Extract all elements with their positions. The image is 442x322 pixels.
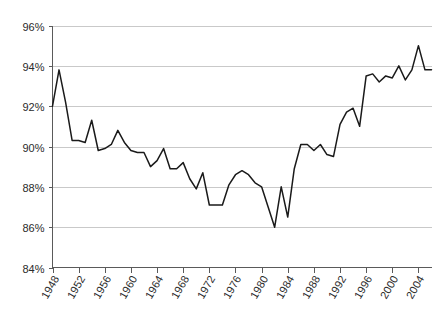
x-tick-label: 2000 — [378, 274, 401, 301]
x-tick-label: 1968 — [169, 274, 192, 301]
x-tick-label: 1992 — [326, 274, 349, 301]
y-tick-label: 86% — [22, 222, 44, 234]
y-tick-label: 94% — [22, 61, 44, 73]
x-tick-label: 1976 — [221, 274, 244, 301]
x-tick-label: 1984 — [274, 274, 297, 301]
y-tick-label: 84% — [22, 263, 44, 275]
y-tick-label: 96% — [22, 21, 44, 33]
x-tick-label: 1980 — [248, 274, 271, 301]
line-chart: 96%94%92%90%88%86%84% 194819521956196019… — [0, 0, 442, 322]
data-series-line — [53, 46, 432, 228]
x-tick-label: 1988 — [300, 274, 323, 301]
x-tick-label: 1972 — [195, 274, 218, 301]
x-tick-label: 1952 — [65, 274, 88, 301]
y-tick-label: 90% — [22, 142, 44, 154]
y-tick-label: 92% — [22, 101, 44, 113]
x-tick-marks-group — [54, 268, 419, 273]
x-tick-label: 1948 — [39, 274, 62, 301]
x-tick-label: 1956 — [91, 274, 114, 301]
x-tick-label: 1964 — [143, 274, 166, 301]
y-tick-label: 88% — [22, 182, 44, 194]
x-tick-label: 1996 — [352, 274, 375, 301]
gridlines-group — [53, 27, 432, 228]
chart-canvas: 96%94%92%90%88%86%84% 194819521956196019… — [0, 0, 442, 322]
y-tick-labels-group: 96%94%92%90%88%86%84% — [22, 21, 44, 275]
x-tick-label: 2004 — [404, 274, 427, 301]
x-tick-labels-group: 1948195219561960196419681972197619801984… — [39, 274, 427, 301]
x-tick-label: 1960 — [117, 274, 140, 301]
